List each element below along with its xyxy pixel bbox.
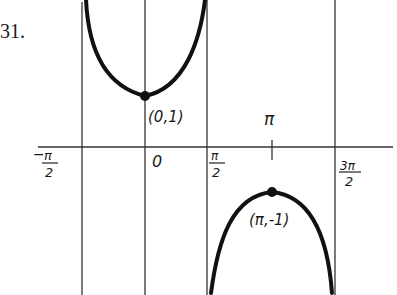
label-point-0-1: (0,1) [148,108,184,126]
label-neg-pi-den: 2 [45,165,53,180]
label-pi-over-2-den: 2 [212,165,220,180]
label-neg-sign: − [33,146,45,162]
label-zero: 0 [152,152,162,171]
label-3pi-over-2-den: 2 [345,174,353,189]
lower-branch-curve [211,192,332,293]
label-neg-pi-num: π [44,148,52,163]
secant-graph: (0,1) (π,-1) − π 2 0 π 2 π 3π 2 [0,0,397,295]
label-3pi-over-2-num: 3π [340,159,356,173]
label-pi-over-2-num: π [211,149,219,163]
point-pi-neg1-marker [267,187,277,197]
label-point-pi-neg1: (π,-1) [249,211,289,229]
label-pi: π [264,109,275,129]
point-0-1-marker [140,91,150,101]
